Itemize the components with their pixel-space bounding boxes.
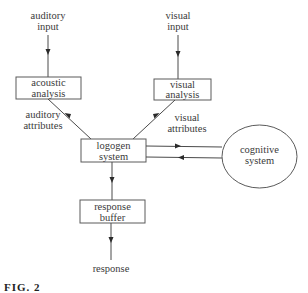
arrowhead-left-icon (178, 155, 184, 160)
response-buffer-box: response buffer (80, 200, 145, 223)
arrowhead-down-icon (109, 237, 114, 243)
response-output-label: response (93, 263, 130, 274)
cognitive-system-ellipse: cognitive system (222, 125, 297, 188)
svg-text:auditory: auditory (26, 109, 62, 120)
auditory-input-arrow (46, 35, 51, 77)
svg-text:attributes: attributes (23, 120, 62, 131)
svg-text:system: system (99, 151, 128, 162)
visual-attributes-label: visual attributes (167, 112, 206, 134)
figure-caption: FIG. 2 (4, 281, 41, 293)
svg-text:analysis: analysis (32, 88, 66, 99)
logogen-to-cognitive-arrow (146, 144, 222, 149)
visual-analysis-box: visual analysis (154, 79, 211, 100)
svg-text:input: input (167, 21, 189, 32)
auditory-input-label: auditory input (31, 10, 67, 32)
svg-text:visual: visual (165, 10, 190, 21)
visual-input-label: visual input (165, 10, 190, 32)
svg-text:system: system (245, 155, 274, 166)
svg-text:auditory: auditory (31, 10, 67, 21)
buffer-to-response-arrow (109, 223, 114, 260)
logogen-to-buffer-arrow (110, 162, 115, 200)
logogen-system-box: logogen system (81, 139, 146, 162)
svg-text:buffer: buffer (100, 212, 126, 223)
svg-text:acoustic: acoustic (31, 77, 66, 88)
auditory-attributes-label: auditory attributes (23, 109, 62, 131)
svg-text:visual: visual (174, 112, 199, 123)
svg-text:cognitive: cognitive (240, 144, 279, 155)
acoustic-analysis-box: acoustic analysis (16, 77, 81, 99)
svg-text:analysis: analysis (166, 89, 200, 100)
svg-text:input: input (37, 21, 59, 32)
visual-input-arrow (176, 35, 181, 79)
arrowhead-down-icon (46, 49, 51, 55)
svg-text:response: response (94, 201, 131, 212)
arrowhead-right-icon (175, 144, 181, 149)
arrowhead-down-icon (110, 177, 115, 183)
svg-text:logogen: logogen (97, 140, 132, 151)
svg-text:attributes: attributes (167, 123, 206, 134)
arrowhead-down-icon (176, 51, 181, 57)
cognitive-to-logogen-arrow (146, 155, 222, 160)
